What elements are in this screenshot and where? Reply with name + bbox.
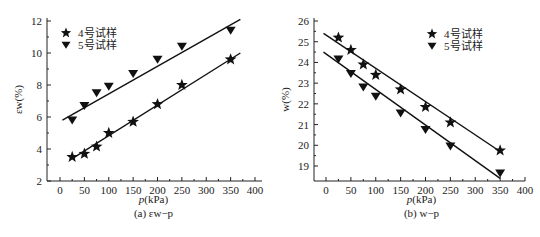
star-marker xyxy=(79,148,91,159)
panel-caption: (a) εw−p xyxy=(134,207,174,220)
triangle-down-icon xyxy=(62,42,71,49)
star-marker xyxy=(445,116,457,127)
y-axis-label: w(%) xyxy=(279,87,292,112)
triangle-down-icon xyxy=(428,43,437,50)
star-marker xyxy=(494,144,506,155)
triangle-down-marker xyxy=(358,84,368,92)
legend-label: 5号试样 xyxy=(444,39,483,52)
x-tick-label: 0 xyxy=(57,184,63,196)
star-marker xyxy=(345,44,357,55)
triangle-down-marker xyxy=(67,116,77,124)
legend-label: 4号试样 xyxy=(444,27,483,40)
star-marker xyxy=(176,79,188,90)
x-tick-label: 50 xyxy=(345,184,357,196)
star-icon xyxy=(427,29,437,39)
triangle-down-marker xyxy=(104,83,114,91)
star-marker xyxy=(66,151,78,162)
legend-label: 5号试样 xyxy=(78,38,117,51)
y-tick-label: 22 xyxy=(298,98,309,110)
star-icon xyxy=(61,28,71,38)
x-tick-label: 100 xyxy=(101,184,118,196)
y-tick-label: 24 xyxy=(298,56,310,68)
x-axis-label: p(kPa) xyxy=(138,193,169,206)
x-tick-label: 0 xyxy=(323,184,329,196)
y-axis-label: εw(%) xyxy=(12,85,25,114)
y-tick-label: 2 xyxy=(37,175,43,187)
y-tick-label: 23 xyxy=(298,77,310,89)
figure: 246810120501001502002503003504004号试样5号试样… xyxy=(0,0,540,237)
panel-caption: (b) w−p xyxy=(404,207,440,220)
chart-panel-b: 1920212223242526050100150200250300350400… xyxy=(279,15,534,220)
x-tick-label: 50 xyxy=(79,184,91,196)
legend: 4号试样5号试样 xyxy=(61,26,117,51)
y-tick-label: 8 xyxy=(37,79,43,91)
star-marker xyxy=(420,101,432,112)
y-tick-label: 4 xyxy=(37,143,43,155)
y-tick-label: 12 xyxy=(31,15,42,27)
star-marker xyxy=(91,140,103,151)
y-tick-label: 21 xyxy=(298,119,309,131)
triangle-down-marker xyxy=(153,56,163,64)
triangle-down-marker xyxy=(177,43,187,51)
x-tick-label: 400 xyxy=(517,184,534,196)
y-tick-label: 10 xyxy=(31,47,43,59)
x-tick-label: 250 xyxy=(174,184,191,196)
triangle-down-marker xyxy=(128,70,138,78)
x-tick-label: 400 xyxy=(247,184,264,196)
legend: 4号试样5号试样 xyxy=(427,27,483,52)
chart-panel-a: 246810120501001502002503003504004号试样5号试样… xyxy=(12,15,264,220)
legend-label: 4号试样 xyxy=(78,26,117,39)
y-tick-label: 6 xyxy=(37,111,43,123)
x-tick-label: 250 xyxy=(442,184,459,196)
triangle-down-marker xyxy=(396,109,406,117)
y-tick-label: 25 xyxy=(298,36,310,48)
x-tick-label: 100 xyxy=(368,184,385,196)
y-tick-label: 26 xyxy=(298,15,310,27)
x-tick-label: 300 xyxy=(198,184,215,196)
x-axis-label: p(kPa) xyxy=(406,193,437,206)
triangle-down-marker xyxy=(92,89,102,97)
triangle-down-marker xyxy=(445,143,455,151)
triangle-down-marker xyxy=(371,93,381,101)
star-marker xyxy=(225,53,237,64)
star-marker xyxy=(395,83,407,94)
star-marker xyxy=(357,58,369,69)
y-tick-label: 20 xyxy=(298,139,310,151)
series-sample-5 xyxy=(324,52,506,178)
x-tick-label: 350 xyxy=(222,184,239,196)
triangle-down-marker xyxy=(226,27,236,35)
triangle-down-marker xyxy=(421,126,431,134)
x-tick-label: 350 xyxy=(492,184,509,196)
x-tick-label: 300 xyxy=(467,184,484,196)
y-tick-label: 19 xyxy=(298,160,310,172)
